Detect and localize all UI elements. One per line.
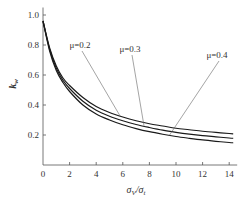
series-label: μ=0.4 bbox=[206, 50, 228, 60]
y-axis-label: kw bbox=[7, 79, 20, 89]
x-tick-label: 0 bbox=[41, 169, 46, 179]
x-tick-label: 12 bbox=[198, 169, 207, 179]
annotations: μ=0.2μ=0.3μ=0.4 bbox=[69, 40, 228, 135]
y-tick-label: 0.4 bbox=[28, 100, 40, 110]
leader-line bbox=[132, 55, 144, 126]
x-tick-label: 6 bbox=[121, 169, 126, 179]
curve-02 bbox=[43, 21, 233, 134]
x-tick-label: 2 bbox=[67, 169, 72, 179]
x-ticks: 02468101214 bbox=[41, 162, 234, 179]
axes bbox=[43, 8, 237, 166]
x-axis-label: σV/σt bbox=[127, 184, 147, 197]
chart: 0.20.40.60.81.0 02468101214 μ=0.2μ=0.3μ=… bbox=[0, 0, 246, 200]
x-tick-label: 14 bbox=[225, 169, 235, 179]
series-label: μ=0.2 bbox=[69, 40, 90, 50]
x-tick-label: 4 bbox=[94, 169, 99, 179]
y-tick-label: 0.6 bbox=[28, 70, 40, 80]
y-tick-label: 0.2 bbox=[28, 130, 39, 140]
leader-line bbox=[169, 61, 219, 135]
x-tick-label: 8 bbox=[147, 169, 152, 179]
x-tick-label: 10 bbox=[172, 169, 182, 179]
leader-line bbox=[82, 51, 120, 116]
series-label: μ=0.3 bbox=[119, 44, 141, 54]
y-tick-label: 1.0 bbox=[28, 10, 40, 20]
y-tick-label: 0.8 bbox=[28, 40, 40, 50]
